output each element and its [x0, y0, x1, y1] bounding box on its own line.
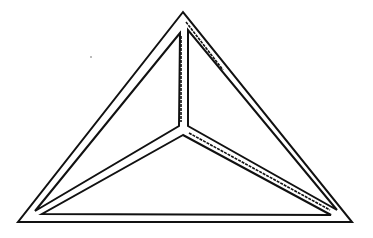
left-face [35, 33, 180, 211]
tetrahedron-drawing [0, 0, 373, 238]
shading-stroke [186, 22, 223, 70]
right-face [188, 30, 337, 210]
speck-dot [90, 56, 91, 57]
pyramid-faces [35, 30, 337, 215]
shading-stroke [189, 133, 330, 210]
edge-shading [181, 22, 330, 210]
bottom-face [42, 135, 331, 215]
